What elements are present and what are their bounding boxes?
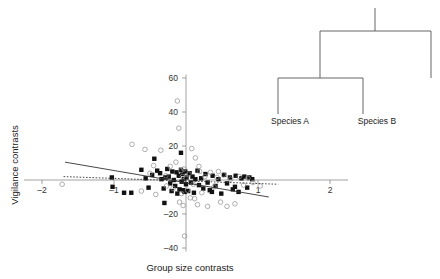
data-point-filled-square: [233, 185, 237, 189]
figure-panel: –2–112604020–20–40 Group size contrasts …: [0, 0, 440, 279]
data-point-open-circle: [175, 99, 180, 104]
data-point-filled-square: [158, 171, 162, 175]
data-point-open-circle: [181, 203, 186, 208]
y-axis-tick-label: 60: [169, 73, 179, 83]
y-axis-title: Vigilance contrasts: [9, 125, 20, 205]
data-point-filled-square: [175, 191, 179, 195]
data-point-open-circle: [193, 156, 198, 161]
data-point-filled-square: [152, 157, 156, 161]
data-point-filled-square: [146, 185, 150, 189]
data-point-filled-square: [162, 201, 166, 205]
data-point-filled-square: [129, 191, 133, 195]
data-point-open-circle: [195, 202, 200, 207]
data-point-open-circle: [164, 184, 169, 189]
x-axis-title: Group size contrasts: [146, 262, 233, 273]
tree-leaf-label-species-b: Species B: [358, 116, 397, 126]
data-point-open-circle: [205, 204, 210, 209]
data-point-filled-square: [139, 168, 143, 172]
data-point-filled-square: [167, 174, 171, 178]
data-point-open-circle: [192, 196, 197, 201]
data-point-filled-square: [205, 180, 209, 184]
data-point-open-circle: [200, 190, 205, 195]
y-axis-tick-label: 20: [169, 141, 179, 151]
data-point-open-circle: [139, 189, 144, 194]
data-point-filled-square: [179, 151, 183, 155]
data-point-open-circle: [153, 192, 158, 197]
data-point-open-circle: [218, 200, 223, 205]
data-point-open-circle: [168, 164, 173, 169]
data-point-filled-square: [110, 185, 114, 189]
tree-leaf-label-species-a: Species A: [271, 116, 309, 126]
data-point-open-circle: [60, 182, 65, 187]
y-axis-tick-label: –40: [164, 243, 178, 253]
data-point-filled-square: [170, 169, 174, 173]
y-axis-tick-label: 40: [169, 107, 179, 117]
data-point-filled-square: [172, 178, 176, 182]
data-point-open-circle: [159, 148, 164, 153]
data-point-open-circle: [225, 204, 230, 209]
data-point-filled-square: [210, 190, 214, 194]
data-point-open-circle: [241, 183, 246, 188]
data-point-filled-square: [161, 186, 165, 190]
data-point-open-circle: [143, 147, 148, 152]
x-axis-tick-label: 2: [328, 185, 333, 195]
data-point-open-circle: [189, 146, 194, 151]
data-point-filled-square: [165, 167, 169, 171]
scatter-figure: –2–112604020–20–40 Group size contrasts …: [0, 0, 440, 279]
data-point-filled-square: [110, 175, 114, 179]
data-point-open-circle: [130, 142, 135, 147]
data-point-filled-square: [225, 181, 229, 185]
data-point-open-circle: [177, 200, 182, 205]
y-axis-tick-label: –20: [164, 209, 178, 219]
x-axis-tick-label: –2: [37, 185, 47, 195]
data-point-open-circle: [233, 202, 238, 207]
data-point-open-circle: [188, 196, 193, 201]
data-point-filled-square: [193, 177, 197, 181]
data-point-open-circle: [216, 169, 221, 174]
data-point-filled-square: [122, 191, 126, 195]
data-point-filled-square: [219, 191, 223, 195]
data-point-open-circle: [197, 164, 202, 169]
data-point-filled-square: [201, 186, 205, 190]
data-point-open-circle: [177, 126, 182, 131]
data-point-open-circle: [151, 163, 156, 168]
data-point-open-circle: [174, 160, 179, 165]
data-point-filled-square: [192, 191, 196, 195]
